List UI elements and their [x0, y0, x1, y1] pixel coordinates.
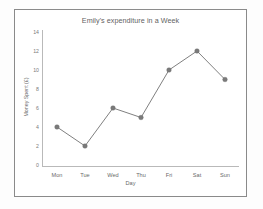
data-series-svg	[43, 32, 239, 165]
y-tick-label: 6	[25, 105, 39, 111]
x-tick-label: Tue	[70, 172, 100, 178]
data-point	[195, 49, 200, 54]
y-tick-label: 12	[25, 48, 39, 54]
data-point	[167, 68, 172, 73]
x-tick-label: Sun	[210, 172, 240, 178]
chart-title: Emily's expenditure in a Week	[15, 16, 246, 25]
data-point	[55, 125, 60, 130]
y-tick-label: 8	[25, 86, 39, 92]
data-line	[57, 51, 225, 146]
plot-area	[43, 32, 239, 165]
data-markers	[55, 49, 228, 149]
y-tick-label: 4	[25, 124, 39, 130]
chart-page: Emily's expenditure in a Week Money Spen…	[0, 0, 263, 209]
y-tick-label: 14	[25, 29, 39, 35]
x-axis-tick-labels: MonTueWedThuFriSatSun	[43, 172, 239, 182]
y-tick-label: 10	[25, 67, 39, 73]
y-tick-label: 0	[25, 162, 39, 168]
x-tick-label: Wed	[98, 172, 128, 178]
x-axis-line	[42, 166, 239, 167]
data-point	[223, 77, 228, 82]
y-axis-tick-labels: 14121086420	[23, 32, 39, 165]
x-tick-label: Mon	[42, 172, 72, 178]
y-tick-label: 2	[25, 143, 39, 149]
figure-frame: Emily's expenditure in a Week Money Spen…	[14, 9, 247, 197]
data-point	[83, 144, 88, 149]
x-tick-label: Fri	[154, 172, 184, 178]
x-tick-label: Sat	[182, 172, 212, 178]
data-point	[111, 106, 116, 111]
data-point	[139, 115, 144, 120]
x-tick-label: Thu	[126, 172, 156, 178]
